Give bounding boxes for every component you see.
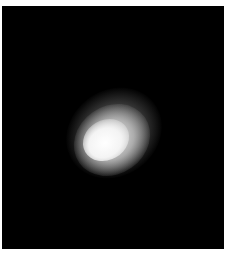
image-frame bbox=[2, 6, 224, 249]
